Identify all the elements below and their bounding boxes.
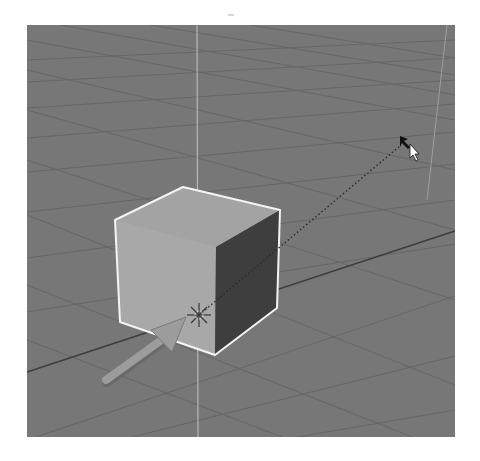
mouse-pointer-icon	[410, 144, 419, 161]
top-artifact	[228, 14, 234, 16]
cube-object[interactable]	[115, 187, 280, 355]
secondary-axis-line	[427, 25, 447, 200]
direction-arrowhead-icon	[400, 136, 410, 149]
3d-viewport[interactable]: 3D Viewport	[27, 25, 455, 437]
page: 3D Viewport	[0, 0, 480, 461]
